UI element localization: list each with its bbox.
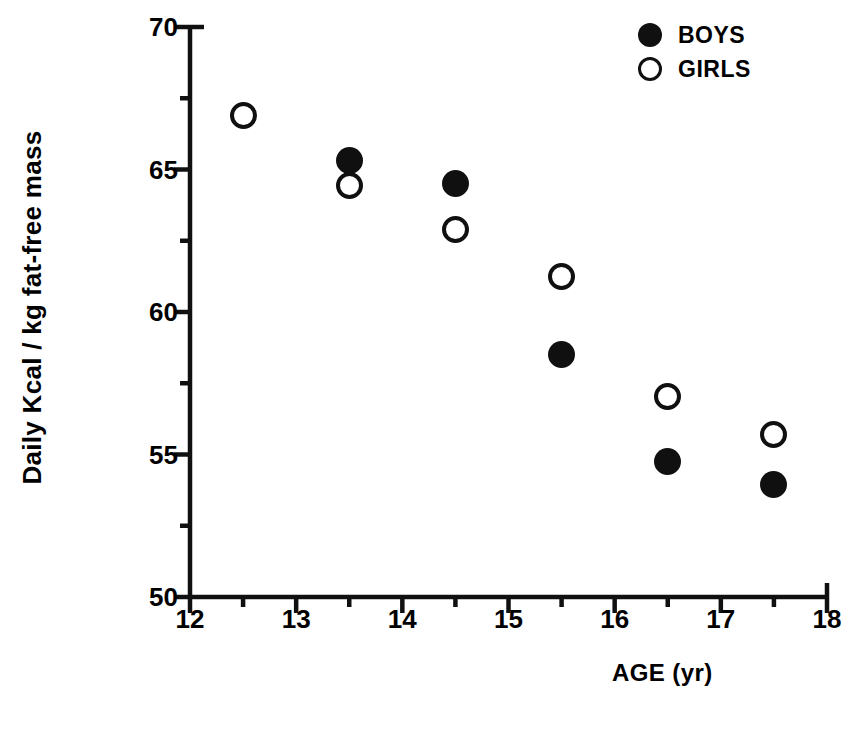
x-axis-tick-label: 14 [372, 606, 432, 632]
y-axis-tick-label: 65 [118, 157, 178, 183]
legend-entry-boys: BOYS [638, 20, 751, 50]
data-point-boys [336, 147, 363, 174]
open-circle-icon [638, 57, 662, 81]
x-axis-tick-label: 16 [585, 606, 645, 632]
y-axis-tick-label: 60 [118, 299, 178, 325]
x-axis-tick-label: 13 [266, 606, 326, 632]
x-axis-tick-label: 17 [691, 606, 751, 632]
y-axis-tick-label: 70 [118, 14, 178, 40]
data-point-girls [654, 383, 681, 410]
x-axis-tick-label: 12 [160, 606, 220, 632]
legend-entry-girls: GIRLS [638, 54, 751, 84]
legend-label-girls: GIRLS [678, 56, 751, 83]
data-point-girls [336, 172, 363, 199]
legend: BOYS GIRLS [638, 20, 751, 88]
data-point-boys [442, 170, 469, 197]
legend-label-boys: BOYS [678, 22, 745, 49]
x-axis-tick-label: 15 [479, 606, 539, 632]
figure-scatter-plot: Daily Kcal / kg fat-free mass AGE (yr) 5… [0, 0, 859, 730]
data-point-girls [230, 102, 257, 129]
y-axis-tick-label: 55 [118, 442, 178, 468]
x-axis-tick-label: 18 [797, 606, 857, 632]
filled-circle-icon [638, 23, 662, 47]
data-point-girls [442, 216, 469, 243]
data-point-girls [548, 263, 575, 290]
